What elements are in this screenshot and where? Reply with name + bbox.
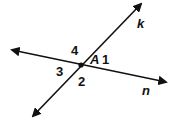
- diagram-canvas: k n A 1 2 3 4: [0, 0, 173, 130]
- angle-label-4: 4: [71, 43, 79, 58]
- line-n: [12, 50, 166, 82]
- intersecting-lines-diagram: k n A 1 2 3 4: [0, 0, 173, 130]
- angle-label-1: 1: [102, 52, 109, 67]
- angle-label-2: 2: [78, 74, 85, 89]
- label-point-a: A: [89, 52, 99, 67]
- label-n: n: [142, 83, 150, 98]
- line-k: [33, 4, 141, 116]
- label-k: k: [137, 16, 145, 31]
- angle-label-3: 3: [56, 64, 63, 79]
- point-a-dot: [78, 62, 83, 67]
